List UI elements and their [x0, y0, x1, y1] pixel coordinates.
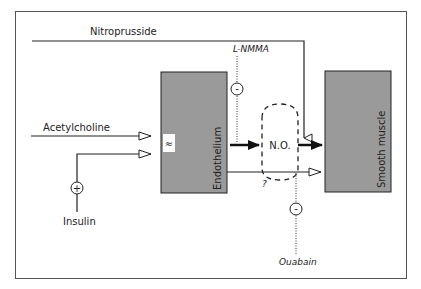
unknown-label: ?	[262, 179, 267, 189]
acetylcholine-label: Acetylcholine	[43, 122, 110, 133]
endothelium-label: Endothelium	[212, 127, 223, 190]
no-label: N.O.	[269, 140, 290, 151]
ouabain-minus-sign: -	[294, 203, 298, 214]
insulin-label: Insulin	[63, 216, 96, 227]
diagram-canvas: Nitroprusside L-NMMA - ≈ Endothelium Smo…	[0, 0, 421, 289]
insulin-plus-sign: +	[73, 183, 81, 194]
lnmma-label: L-NMMA	[233, 44, 269, 54]
lnmma-minus-sign: -	[235, 83, 239, 94]
smooth-muscle-label: Smooth muscle	[376, 111, 387, 188]
ouabain-label: Ouabain	[279, 257, 317, 267]
receptor-icon: ≈	[165, 138, 173, 149]
nitroprusside-label: Nitroprusside	[90, 26, 157, 37]
